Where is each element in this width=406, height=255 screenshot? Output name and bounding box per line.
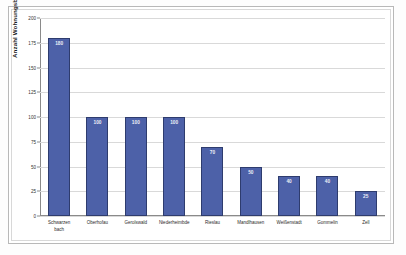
bar-value-label: 100 [126,120,146,125]
x-tick-label: Gommelin [308,218,346,242]
x-tick-label: Niederheimbde [155,218,193,242]
bar[interactable]: 25 [355,191,377,216]
x-tick-label: Rieslau [193,218,231,242]
y-tick-label: 25 [31,189,36,194]
bar-slot: 40 [270,18,308,216]
x-tick-label: Gerolswald [117,218,155,242]
y-tick-label: 125 [28,90,36,95]
bar-slot: 50 [232,18,270,216]
bar-slot: 40 [308,18,346,216]
bar[interactable]: 100 [163,117,185,216]
bar[interactable]: 40 [316,176,338,216]
bar-slot: 100 [78,18,116,216]
bar-series: 1801001001007050404025 [40,18,385,216]
x-tick-label: Zell [347,218,385,242]
x-tick-label: Schwarzenbach [40,218,78,242]
chart-figure: Anzahl Wohnungsbestände 0255075100125150… [0,0,406,255]
y-axis-title: Anzahl Wohnungsbestände [11,0,23,58]
x-tick-label: Mandlhausen [232,218,270,242]
bar-value-label: 40 [317,179,337,184]
bar[interactable]: 180 [48,38,70,216]
bar-slot: 100 [117,18,155,216]
bar[interactable]: 70 [201,147,223,216]
x-tick-label-line: Mandlhausen [232,220,270,227]
bar-slot: 70 [193,18,231,216]
x-tick-label-line: Weißenstadt [270,220,308,227]
y-tick-label: 200 [28,16,36,21]
bar[interactable]: 100 [86,117,108,216]
bar-value-label: 40 [279,179,299,184]
y-tick-label: 175 [28,40,36,45]
bar-value-label: 180 [49,41,69,46]
y-tick-label: 75 [31,139,36,144]
bar-slot: 25 [347,18,385,216]
x-tick-label-line: Rieslau [193,220,231,227]
bar-value-label: 70 [202,150,222,155]
x-tick-label-line: Niederheimbde [155,220,193,227]
x-axis-labels: SchwarzenbachOberhofauGerolswaldNiederhe… [40,218,385,242]
x-tick-label-line: Gerolswald [117,220,155,227]
x-tick-label-line: Zell [347,220,385,227]
bar[interactable]: 100 [125,117,147,216]
bar-value-label: 100 [164,120,184,125]
bar-value-label: 50 [241,170,261,175]
x-tick-label-line: bach [40,227,78,234]
bar-value-label: 25 [356,194,376,199]
bar[interactable]: 40 [278,176,300,216]
x-tick-label: Oberhofau [78,218,116,242]
x-tick-label-line: Gommelin [308,220,346,227]
bar-value-label: 100 [87,120,107,125]
x-tick-label-line: Oberhofau [78,220,116,227]
bar-slot: 100 [155,18,193,216]
x-tick-label: Weißenstadt [270,218,308,242]
y-tick-label: 0 [33,214,36,219]
y-tick-label: 50 [31,164,36,169]
gridline [40,216,385,217]
y-tick-label: 150 [28,65,36,70]
y-tick-label: 100 [28,115,36,120]
plot-area: 0255075100125150175200 18010010010070504… [40,18,385,216]
bar[interactable]: 50 [240,167,262,217]
bar-slot: 180 [40,18,78,216]
